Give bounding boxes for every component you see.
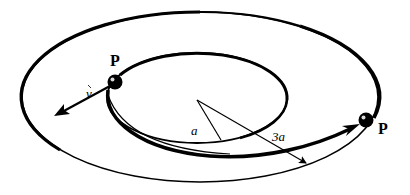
particle-start <box>108 75 123 90</box>
radius-lines <box>197 100 306 163</box>
outer-radius-line <box>197 100 306 163</box>
label-point-end: P <box>378 120 388 137</box>
orbit-diagram: P P v a 3a <box>0 0 410 195</box>
label-velocity: v <box>86 86 92 101</box>
label-point-start: P <box>110 52 120 69</box>
velocity-vector <box>54 86 110 116</box>
label-outer-radius: 3a <box>271 129 286 144</box>
transfer-path <box>108 90 360 157</box>
inner-radius-line <box>197 100 221 140</box>
particle-end <box>359 113 374 128</box>
label-inner-radius: a <box>191 123 198 138</box>
